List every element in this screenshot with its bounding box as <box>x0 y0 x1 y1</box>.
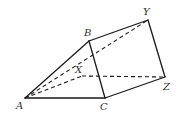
label-Y: Y <box>143 6 151 17</box>
edge-XZ-hidden <box>82 76 165 77</box>
prism-diagram: A B C X Y Z <box>0 0 186 115</box>
edge-AX-hidden <box>25 76 82 98</box>
label-X: X <box>74 64 83 75</box>
label-C: C <box>100 101 108 112</box>
edge-BY <box>89 20 148 41</box>
label-B: B <box>83 27 91 38</box>
label-A: A <box>15 100 23 111</box>
edge-CZ <box>105 77 165 98</box>
edge-YZ <box>148 20 165 77</box>
edge-BC <box>89 41 105 98</box>
label-Z: Z <box>162 81 171 92</box>
